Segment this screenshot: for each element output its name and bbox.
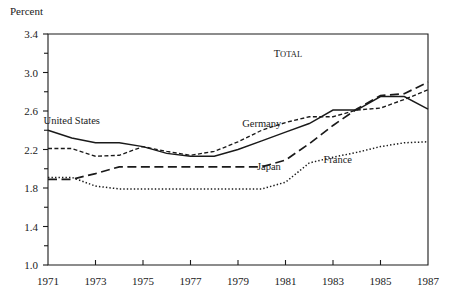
x-tick-label: 1977 (180, 275, 203, 287)
y-tick-label: 2.6 (24, 105, 38, 117)
x-tick-label: 1975 (132, 275, 155, 287)
x-axis-tick-labels: 197119731975197719791981198319851987 (37, 275, 440, 287)
annotation-total: TOTAL (274, 48, 302, 59)
x-tick-label: 1981 (275, 275, 297, 287)
chart-background (0, 0, 452, 303)
chart-figure: Percent 1.01.41.82.22.63.03.4 1971197319… (0, 0, 452, 303)
x-tick-label: 1979 (227, 275, 250, 287)
series-label-germany: Germany (242, 118, 282, 129)
y-tick-label: 1.4 (24, 221, 38, 233)
y-axis-title: Percent (10, 5, 43, 17)
y-tick-label: 3.0 (24, 67, 38, 79)
x-tick-label: 1971 (37, 275, 59, 287)
series-label-united-states: United States (44, 115, 100, 126)
y-tick-label: 3.4 (24, 28, 38, 40)
series-label-japan: Japan (257, 161, 282, 172)
x-tick-label: 1987 (417, 275, 440, 287)
x-tick-label: 1983 (322, 275, 345, 287)
y-tick-label: 1.0 (24, 259, 38, 271)
y-tick-label: 2.2 (24, 144, 38, 156)
series-label-france: France (323, 154, 352, 165)
chart-annotations: TOTAL (274, 48, 302, 59)
x-tick-label: 1973 (85, 275, 108, 287)
y-tick-label: 1.8 (24, 182, 38, 194)
x-tick-label: 1985 (370, 275, 393, 287)
